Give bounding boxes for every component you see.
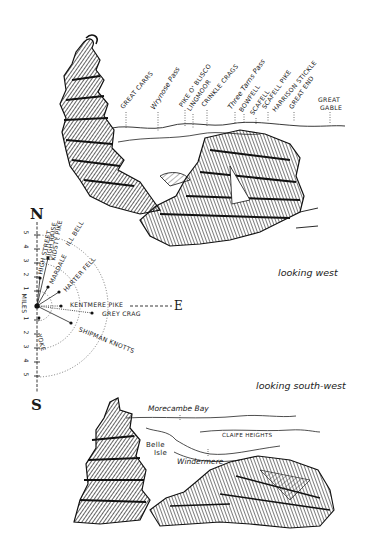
scale-number: 3: [23, 258, 30, 262]
scale-number: 2: [23, 272, 30, 276]
label-claife-heights: CLAIFE HEIGHTS: [222, 432, 272, 438]
scale-number: 5: [23, 230, 30, 234]
compass-east: E: [174, 299, 183, 313]
caption-looking-west: looking west: [278, 267, 338, 278]
label-belle-isle-2: Isle: [154, 449, 167, 457]
fell-label: KENTMERE PIKE: [70, 301, 123, 308]
caption-looking-southwest: looking south-west: [256, 380, 346, 391]
compass-south: S: [31, 396, 42, 414]
scale-number: 1: [23, 316, 30, 320]
fell-label: GREY CRAG: [102, 310, 141, 317]
peak-label-great-gable-1: GREAT: [318, 96, 340, 103]
scale-number: 4: [23, 358, 30, 362]
scale-number: 1: [23, 286, 30, 290]
scale-number: 5: [23, 372, 30, 376]
cairn-southwest: [74, 398, 150, 524]
cairn-west: [60, 35, 160, 214]
horizon-west: [112, 122, 345, 128]
peak-label-great-gable-2: GABLE: [320, 104, 342, 111]
scale-number: 4: [23, 244, 30, 248]
scale-number: 2: [23, 330, 30, 334]
label-windermere: Windermere: [177, 457, 223, 466]
label-morecambe-bay: Morecambe Bay: [148, 404, 209, 413]
label-belle-isle-1: Belle: [146, 441, 165, 449]
rock-outcrop-west: [140, 130, 318, 246]
compass-north: N: [30, 205, 44, 223]
peak-leaders: [126, 110, 330, 132]
scale-label-miles: MILES: [21, 294, 28, 314]
scale-number: 3: [23, 344, 30, 348]
rock-outcrop-southwest: [150, 456, 334, 528]
